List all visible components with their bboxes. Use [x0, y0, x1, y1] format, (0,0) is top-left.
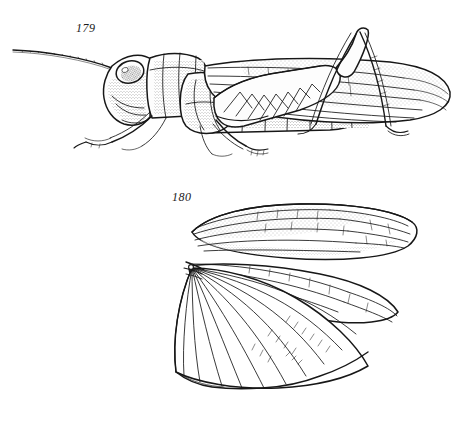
antenna: [13, 50, 112, 70]
figure-179-group: [13, 28, 450, 156]
figure-180-group: [175, 204, 417, 389]
illustration-plate: 179 180: [0, 0, 470, 427]
tegmen-180: [192, 204, 417, 260]
plate-drawing: [0, 0, 470, 427]
